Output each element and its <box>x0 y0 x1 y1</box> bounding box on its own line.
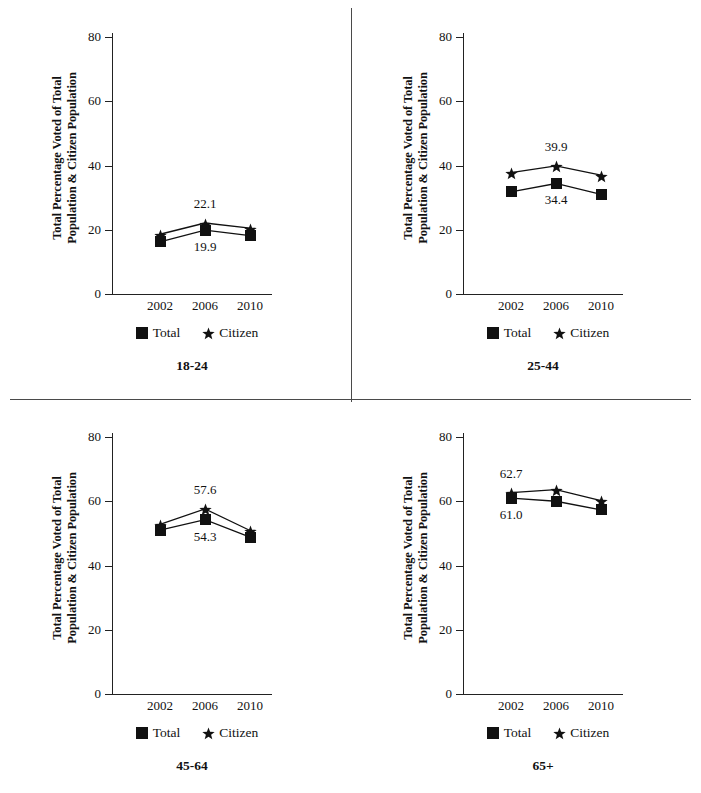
y-tick-80 <box>105 37 112 38</box>
y-tick-label: 80 <box>61 30 101 43</box>
star-marker <box>202 727 214 739</box>
square-marker <box>487 727 499 739</box>
y-tick-0 <box>456 694 463 695</box>
y-tick-label: 60 <box>412 94 452 107</box>
legend-label: Citizen <box>219 725 258 741</box>
y-tick-40 <box>105 166 112 167</box>
chart-legend: TotalCitizen <box>463 725 633 741</box>
star-marker <box>154 518 167 531</box>
y-tick-20 <box>456 230 463 231</box>
data-label-61.0: 61.0 <box>489 508 533 522</box>
y-tick-80 <box>456 437 463 438</box>
y-tick-20 <box>105 630 112 631</box>
star-marker <box>595 494 608 507</box>
square-marker <box>551 178 562 189</box>
y-tick-label-wrap-0: 0 <box>408 287 452 300</box>
y-tick-label-wrap-80: 80 <box>57 30 101 43</box>
legend-label: Total <box>153 725 181 741</box>
legend-item-total[interactable]: Total <box>487 725 532 741</box>
y-tick-label: 40 <box>61 159 101 172</box>
square-marker <box>596 189 607 200</box>
x-tick-label-2010: 2010 <box>227 699 273 713</box>
y-tick-label: 0 <box>61 287 101 300</box>
legend-label: Citizen <box>570 725 609 741</box>
y-tick-20 <box>456 630 463 631</box>
y-tick-80 <box>105 437 112 438</box>
star-marker <box>154 228 167 241</box>
y-tick-60 <box>456 101 463 102</box>
square-marker <box>136 727 148 739</box>
legend-item-citizen[interactable]: Citizen <box>202 725 258 741</box>
y-tick-label: 20 <box>61 223 101 236</box>
y-tick-label-wrap-60: 60 <box>408 94 452 107</box>
star-marker <box>505 486 518 499</box>
x-axis-line <box>463 694 623 695</box>
y-axis-line <box>463 33 464 295</box>
y-tick-40 <box>456 566 463 567</box>
legend-label: Total <box>504 725 532 741</box>
legend-label: Citizen <box>219 325 258 341</box>
y-tick-label: 80 <box>412 430 452 443</box>
y-tick-label: 0 <box>412 287 452 300</box>
y-tick-label: 60 <box>412 494 452 507</box>
chart-panel-45-64: Total Percentage Voted of TotalPopulatio… <box>0 400 350 793</box>
y-tick-label: 80 <box>412 30 452 43</box>
y-tick-label-wrap-20: 20 <box>57 623 101 636</box>
star-marker <box>595 169 608 182</box>
y-tick-label: 40 <box>61 559 101 572</box>
panel-title: 25-44 <box>463 358 623 374</box>
x-axis-line <box>463 294 623 295</box>
y-tick-label: 0 <box>412 687 452 700</box>
y-tick-label-wrap-20: 20 <box>57 223 101 236</box>
data-label-62.7: 62.7 <box>489 467 533 481</box>
chart-legend: TotalCitizen <box>112 725 282 741</box>
y-tick-label-wrap-0: 0 <box>408 687 452 700</box>
y-tick-label-wrap-20: 20 <box>408 223 452 236</box>
data-label-57.6: 57.6 <box>183 483 227 497</box>
data-label-54.3: 54.3 <box>183 530 227 544</box>
star-marker <box>244 222 257 235</box>
y-tick-label: 20 <box>412 223 452 236</box>
legend-item-total[interactable]: Total <box>136 725 181 741</box>
panel-title: 45-64 <box>112 758 272 774</box>
y-tick-label: 20 <box>412 623 452 636</box>
y-tick-60 <box>456 501 463 502</box>
y-tick-60 <box>105 501 112 502</box>
y-tick-label: 40 <box>412 159 452 172</box>
y-tick-label-wrap-0: 0 <box>57 287 101 300</box>
x-tick-label-2002: 2002 <box>137 299 183 313</box>
legend-item-citizen[interactable]: Citizen <box>553 725 609 741</box>
star-marker <box>553 727 565 739</box>
y-tick-label-wrap-0: 0 <box>57 687 101 700</box>
star-marker <box>550 159 563 172</box>
legend-label: Citizen <box>570 325 609 341</box>
y-axis-line <box>112 33 113 295</box>
chart-legend: TotalCitizen <box>112 325 282 341</box>
y-tick-0 <box>105 294 112 295</box>
star-marker <box>199 217 212 230</box>
y-tick-0 <box>456 294 463 295</box>
small-multiples-figure: Total Percentage Voted of TotalPopulatio… <box>0 0 701 793</box>
panel-title: 18-24 <box>112 358 272 374</box>
x-axis-line <box>112 694 272 695</box>
square-marker <box>136 327 148 339</box>
legend-item-total[interactable]: Total <box>136 325 181 341</box>
star-marker <box>505 166 518 179</box>
y-tick-0 <box>105 694 112 695</box>
panel-title: 65+ <box>463 758 623 774</box>
chart-legend: TotalCitizen <box>463 325 633 341</box>
legend-item-citizen[interactable]: Citizen <box>202 325 258 341</box>
y-tick-40 <box>105 566 112 567</box>
y-axis-line <box>463 433 464 695</box>
data-label-22.1: 22.1 <box>183 197 227 211</box>
y-tick-label: 80 <box>61 430 101 443</box>
legend-item-citizen[interactable]: Citizen <box>553 325 609 341</box>
x-tick-label-2010: 2010 <box>578 299 624 313</box>
legend-item-total[interactable]: Total <box>487 325 532 341</box>
y-tick-40 <box>456 166 463 167</box>
data-label-19.9: 19.9 <box>183 240 227 254</box>
x-tick-label-2006: 2006 <box>533 699 579 713</box>
y-tick-label-wrap-20: 20 <box>408 623 452 636</box>
star-marker <box>550 483 563 496</box>
star-marker <box>244 524 257 537</box>
